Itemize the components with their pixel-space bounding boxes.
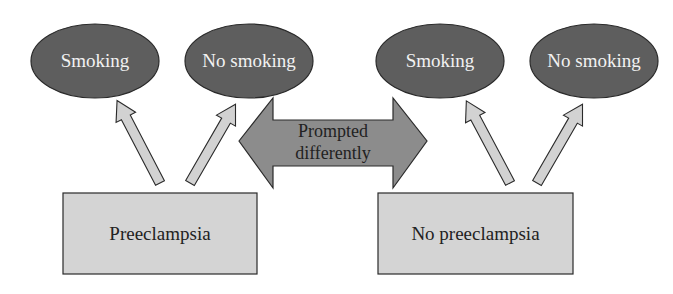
double-arrow-label-line2: differently [273, 143, 393, 163]
box-label-preeclampsia: Preeclampsia [63, 224, 257, 244]
arrow-up-left-2 [457, 96, 520, 188]
oval-label-no-smoking-right: No smoking [530, 51, 658, 71]
double-arrow-label-line1: Prompted [273, 121, 393, 141]
arrow-up-right-2 [527, 99, 592, 189]
oval-label-no-smoking-left: No smoking [185, 51, 313, 71]
arrow-up-left-1 [107, 95, 169, 188]
oval-label-smoking-right: Smoking [376, 51, 504, 71]
oval-label-smoking-left: Smoking [31, 51, 159, 71]
arrow-up-right-1 [180, 99, 245, 189]
box-label-no-preeclampsia: No preeclampsia [378, 224, 573, 244]
